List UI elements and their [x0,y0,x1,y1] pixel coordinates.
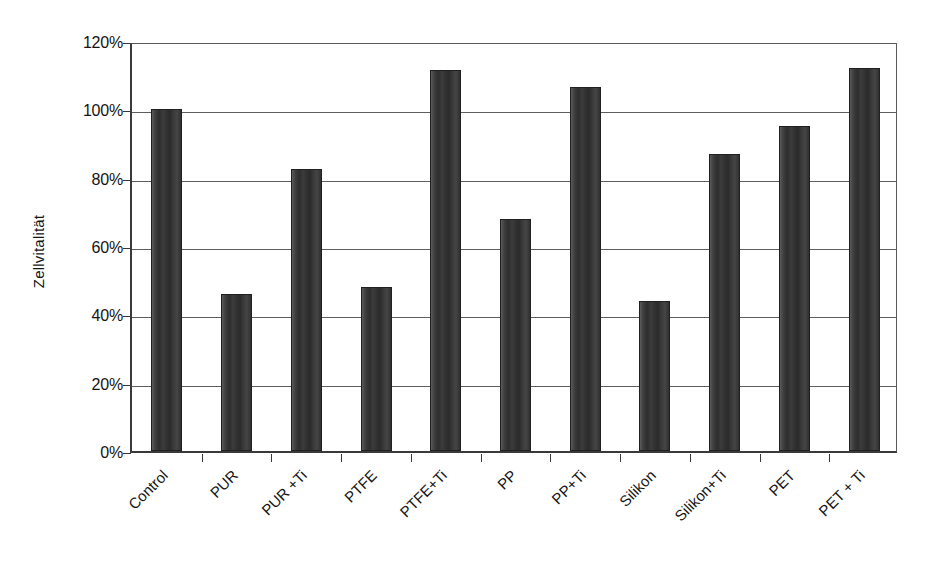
bar [779,126,810,451]
x-axis-tick-label-text: PP [494,467,519,492]
x-axis-tick-label-text: PTFE [342,467,380,505]
x-axis-tick-label-text: Silikon+Ti [671,467,727,523]
bar [291,169,322,451]
y-axis-tick-label: 120% [57,35,123,51]
bar [639,301,670,451]
y-axis-tick-label: 0% [57,445,123,461]
y-axis-tick-label: 80% [57,172,123,188]
x-axis-tick-label-text: PTFE+Ti [397,467,449,519]
x-axis-tick-label-text: Control [125,467,170,512]
bar [570,87,601,451]
bar-chart: Zellvitalität 0%20%40%60%80%100%120% Con… [0,0,933,572]
bar [709,154,740,451]
y-axis-tick-label: 100% [57,103,123,119]
bar [151,109,182,451]
bar [430,70,461,451]
x-axis-tick-label-text: PET + Ti [816,467,867,518]
x-axis-tick-label-text: PET [766,467,797,498]
y-axis-tick-label: 20% [57,377,123,393]
x-axis-tick-label: PUR [17,467,240,572]
gridline [132,112,896,113]
bar [361,287,392,451]
bar [221,294,252,451]
bar [849,68,880,451]
x-axis-tick-label-text: PUR [207,467,240,500]
y-axis-tick-label: 40% [57,308,123,324]
plot-area [130,43,897,453]
x-axis-tick-label-text: PUR +Ti [259,467,310,518]
x-axis-tick-labels: ControlPURPUR +TiPTFEPTFE+TiPPPP+TiSilik… [130,453,897,572]
x-axis-tick-label-text: PP+Ti [549,467,588,506]
y-axis-title: Zellvitalität [30,152,47,352]
bar [500,219,531,451]
y-axis-tick-label: 60% [57,240,123,256]
x-axis-tick-label-text: Silikon [616,467,658,509]
y-axis-tick-labels: 0%20%40%60%80%100%120% [55,0,123,572]
